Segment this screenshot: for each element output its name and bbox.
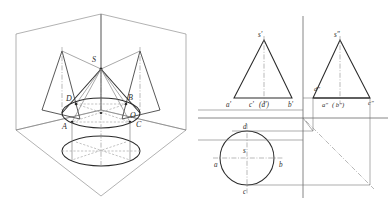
label-center-O: O <box>130 111 136 120</box>
label-side-upper-left: d″ <box>314 85 320 92</box>
label-point-D: D <box>65 94 72 103</box>
label-side-apex: s″ <box>334 31 341 39</box>
engineering-drawing-figure: .pl{fill:none;stroke:#7d7d7d;stroke-widt… <box>0 0 390 204</box>
label-front-left: a' <box>226 101 232 109</box>
label-point-A: A <box>61 122 67 131</box>
label-point-B: B <box>128 93 133 102</box>
label-top-d: d <box>243 123 247 131</box>
label-top-a: a <box>214 161 218 169</box>
label-side-left: a″ <box>322 101 328 108</box>
label-side-hidden: ( b″) <box>332 101 344 109</box>
label-point-C: C <box>136 120 142 129</box>
point-D <box>75 103 78 106</box>
label-front-center: c' <box>249 101 254 109</box>
label-top-b: b <box>279 161 283 169</box>
drawing-canvas: .pl{fill:none;stroke:#7d7d7d;stroke-widt… <box>0 0 390 204</box>
label-front-right: b' <box>288 101 294 109</box>
label-top-s: s <box>243 147 246 155</box>
point-B <box>125 103 128 106</box>
label-apex-S: S <box>92 55 96 64</box>
label-side-right: c″ <box>368 99 374 106</box>
label-front-center-hidden: (d') <box>259 101 270 109</box>
label-front-apex: s' <box>258 31 263 39</box>
